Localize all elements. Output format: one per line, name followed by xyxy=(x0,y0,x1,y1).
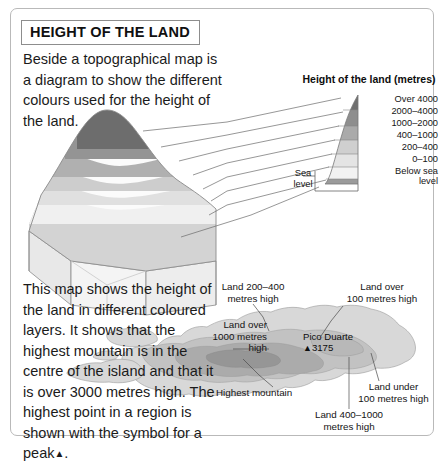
sea-level-label: Sea level xyxy=(285,168,321,189)
peak-height: 3175 xyxy=(312,342,333,353)
legend-heading: Height of the land (metres) xyxy=(289,73,448,85)
sea-level-line1: Sea xyxy=(285,168,321,179)
legend-label-0-100: 0–100 xyxy=(366,153,438,165)
sea-level-bracket xyxy=(315,171,358,191)
band-200-400 xyxy=(31,183,216,205)
wedge-400-1000 xyxy=(321,140,361,154)
leader-highest-mountain xyxy=(243,359,273,387)
sea-level-line2: level xyxy=(285,179,321,190)
terrain-bands xyxy=(21,108,226,279)
peak-name: Pico Duarte xyxy=(303,331,353,342)
map-label-land-200-400-line2: metres high xyxy=(203,293,303,305)
map-label-land-under-100-line2: 100 metres high xyxy=(341,393,446,405)
legend-label-below-sea-line2: level xyxy=(366,176,438,187)
band-1000-2000 xyxy=(51,151,193,177)
page-frame: HEIGHT OF THE LAND Beside a topographica… xyxy=(10,8,434,436)
legend-label-1000-2000: 1000–2000 xyxy=(366,117,438,129)
map-label-land-under-100-line1: Land under xyxy=(341,381,446,393)
peak-symbol-icon: ▲ xyxy=(54,448,64,459)
intro-paragraph: Beside a topographical map is a diagram … xyxy=(23,49,223,131)
legend-labels: Over 4000 2000–4000 1000–2000 400–1000 2… xyxy=(366,93,438,187)
wedge-0-100 xyxy=(321,167,361,179)
map-label-land-under-100: Land under 100 metres high xyxy=(341,381,446,404)
peak-height-row: ▲3175 xyxy=(303,342,353,354)
page-title-box: HEIGHT OF THE LAND xyxy=(21,20,200,45)
wedge-outline xyxy=(325,95,358,184)
map-label-land-400-1000: Land 400–1000 metres high xyxy=(296,409,402,432)
wedge-1000-2000 xyxy=(321,126,361,140)
leader-1000-2000 xyxy=(179,126,339,161)
band-400-1000 xyxy=(39,167,207,191)
map-label-land-over-1000-line3: high xyxy=(187,342,267,354)
block-top-surface xyxy=(29,110,216,271)
wedge-below-sea xyxy=(321,179,361,189)
wedge-dividers xyxy=(326,110,358,179)
map-label-land-over-1000-line2: 1000 metres xyxy=(187,331,267,343)
map-label-highest-mountain-line1: Highest mountain xyxy=(216,387,292,399)
block-top-outline xyxy=(29,110,216,271)
leader-land-under-100 xyxy=(371,353,379,381)
map-label-land-over-100-line1: Land over xyxy=(326,281,438,293)
legend-label-below-sea-line1: Below sea xyxy=(366,166,438,177)
body-paragraph-period: . xyxy=(64,445,68,461)
peak-label-group: Pico Duarte ▲3175 xyxy=(303,331,353,354)
legend-label-200-400: 200–400 xyxy=(366,141,438,153)
band-0-100 xyxy=(21,195,226,224)
map-label-land-over-100-line2: 100 metres high xyxy=(326,293,438,305)
page-title: HEIGHT OF THE LAND xyxy=(30,24,190,40)
map-label-highest-mountain: Highest mountain xyxy=(216,387,292,399)
map-label-land-200-400: Land 200–400 metres high xyxy=(203,281,303,304)
map-label-land-400-1000-line2: metres high xyxy=(296,421,402,433)
body-paragraph-text: This map shows the height of the land in… xyxy=(23,281,215,461)
wedge-over-4000 xyxy=(321,93,361,110)
map-label-land-400-1000-line1: Land 400–1000 xyxy=(296,409,402,421)
legend-label-over-4000: Over 4000 xyxy=(366,93,438,105)
map-label-land-over-1000: Land over 1000 metres high xyxy=(187,319,267,354)
map-label-land-200-400-line1: Land 200–400 xyxy=(203,281,303,293)
body-paragraph: This map shows the height of the land in… xyxy=(23,279,218,465)
legend-label-400-1000: 400–1000 xyxy=(366,129,438,141)
legend-label-2000-4000: 2000–4000 xyxy=(366,105,438,117)
leader-sea-level-block xyxy=(181,187,319,237)
map-label-land-over-100: Land over 100 metres high xyxy=(326,281,438,304)
wedge-200-400 xyxy=(321,154,361,167)
map-label-land-over-1000-line1: Land over xyxy=(187,319,267,331)
peak-marker-icon: ▲ xyxy=(303,343,312,353)
wedge-2000-4000 xyxy=(321,110,361,126)
band-2000-4000 xyxy=(65,131,177,159)
band-below-sea xyxy=(21,208,226,279)
